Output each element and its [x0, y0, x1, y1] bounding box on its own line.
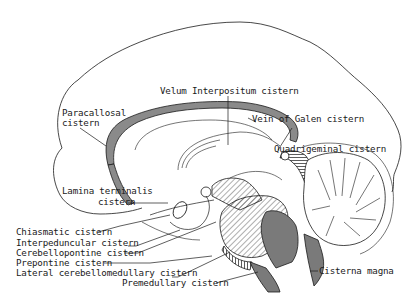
label-chiasmatic-cistern: Chiasmatic cistern	[16, 227, 112, 237]
label-lamina-terminalis-cistern-line1: Lamina terminalis	[62, 186, 153, 196]
premedullary-region	[261, 211, 298, 268]
label-velum-interpositum-cistern: Velum Interpositum cistern	[160, 86, 299, 96]
label-cisterna-magna: Cisterna magna	[319, 266, 394, 276]
paracallosal-band	[106, 102, 298, 165]
label-quadrigeminal-cistern: Quadrigeminal cistern	[274, 144, 386, 154]
label-lamina-terminalis-cistern-line2: cistern	[98, 197, 135, 207]
cisterna-magna	[304, 234, 324, 286]
cistern-diagram: Velum Interpositum cistern Paracallosal …	[0, 0, 414, 307]
label-vein-of-galen-cistern: Vein of Galen cistern	[252, 114, 364, 124]
label-premedullary-cistern: Premedullary cistern	[122, 278, 229, 288]
label-paracallosal-cistern-line2: cistern	[62, 118, 99, 128]
